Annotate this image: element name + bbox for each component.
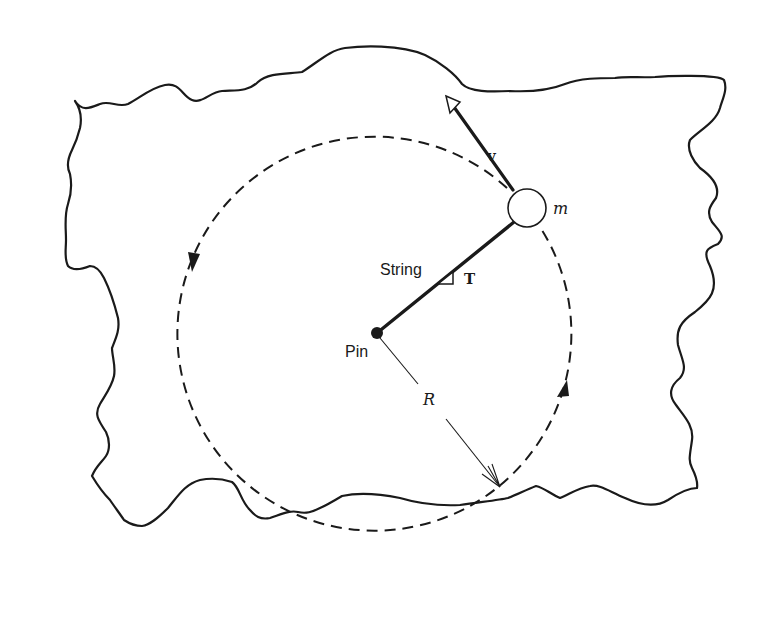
tension-arrowhead — [438, 272, 453, 284]
velocity-label: v — [486, 147, 497, 165]
pin-dot — [371, 327, 383, 339]
orbit-direction-arrowhead-left — [188, 252, 200, 272]
radius-line-lower — [446, 419, 500, 487]
string-label: String — [380, 261, 422, 278]
circular-motion-diagram: v m String T Pin R — [0, 0, 761, 640]
tension-label: T — [464, 270, 476, 288]
mass-label: m — [553, 199, 568, 218]
orbit-direction-arrowhead-right — [557, 380, 569, 397]
radius-arrowhead — [488, 464, 500, 487]
radius-label: R — [422, 390, 435, 409]
pin-label: Pin — [345, 343, 368, 360]
velocity-vector-line — [454, 107, 513, 190]
radius-line — [380, 338, 418, 384]
surface-outline — [66, 46, 726, 526]
mass-circle — [508, 189, 546, 227]
